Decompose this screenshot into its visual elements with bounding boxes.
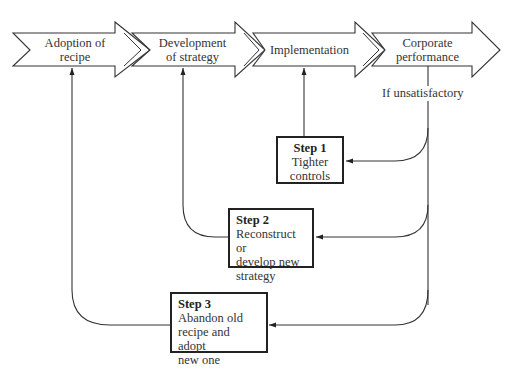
step3-title: Step 3: [178, 297, 260, 311]
feedback-arrow-step2: [316, 205, 428, 237]
step3-to-adoption-line: [72, 68, 170, 325]
feedback-arrow-step1: [346, 128, 428, 161]
step2-box: Step 2 Reconstruct or develop new strate…: [228, 208, 314, 268]
stage-label-development: Development of strategy: [145, 36, 240, 64]
stage-label-adoption: Adoption of recipe: [30, 36, 120, 64]
step2-title: Step 2: [236, 213, 306, 227]
step2-to-development-line: [183, 68, 228, 237]
step1-box: Step 1 Tighter controls: [276, 136, 344, 184]
stage-label-implementation: Implementation: [262, 43, 357, 57]
step1-title: Step 1: [284, 141, 336, 155]
step3-box: Step 3 Abandon old recipe and adopt new …: [170, 292, 268, 353]
condition-label: If unsatisfactory: [380, 86, 466, 101]
stage-label-performance: Corporate performance: [380, 36, 475, 64]
feedback-arrow-step3: [269, 290, 428, 325]
